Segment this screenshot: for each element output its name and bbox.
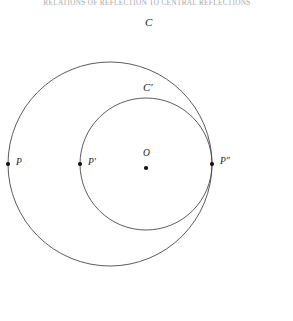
outer-circle bbox=[8, 62, 212, 266]
point-p-label: P bbox=[16, 158, 22, 168]
geometry-figure-canvas bbox=[0, 0, 293, 321]
point-o-label: O bbox=[143, 149, 150, 159]
point-p-prime-marker bbox=[78, 162, 82, 166]
point-p-marker bbox=[6, 162, 10, 166]
figure-root: RELATIONS OF REFLECTION TO CENTRAL REFLE… bbox=[0, 0, 293, 321]
point-p-double-prime-marker bbox=[210, 162, 214, 166]
point-p-double-prime-label: P″ bbox=[220, 157, 230, 167]
outer-circle-label: C bbox=[145, 17, 152, 28]
inner-circle bbox=[80, 98, 212, 230]
inner-circle-label: C′ bbox=[143, 82, 153, 93]
point-o-marker bbox=[144, 166, 148, 170]
point-p-prime-label: P′ bbox=[88, 158, 96, 168]
